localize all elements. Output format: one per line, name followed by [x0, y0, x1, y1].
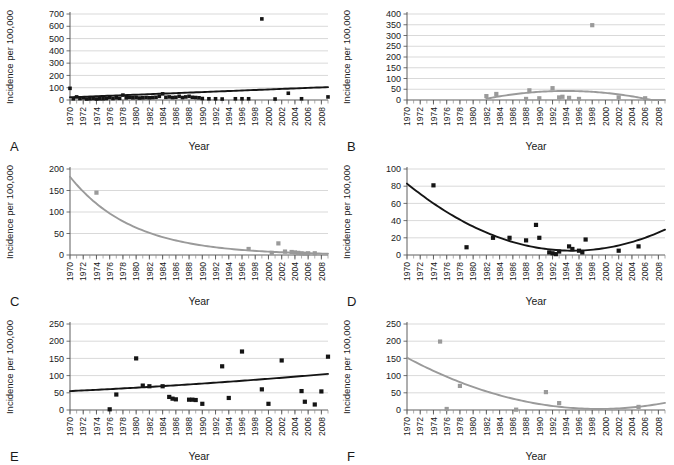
data-point — [187, 95, 191, 99]
x-tick-label: 1984 — [158, 262, 168, 281]
x-tick-label: 2006 — [640, 417, 650, 436]
data-point — [220, 364, 224, 368]
data-point — [167, 95, 171, 99]
data-point — [108, 407, 112, 411]
data-point — [514, 408, 518, 412]
x-tick-label: 1974 — [92, 262, 102, 281]
data-point — [151, 96, 155, 100]
data-point — [636, 405, 640, 409]
x-tick-label: 1986 — [508, 107, 518, 126]
data-point — [590, 23, 594, 27]
x-tick-label: 1994 — [561, 417, 571, 436]
x-tick-label: 1998 — [587, 107, 597, 126]
x-tick-label: 1980 — [468, 262, 478, 281]
x-tick-label: 1984 — [158, 107, 168, 126]
data-point — [303, 400, 307, 404]
x-tick-label: 1996 — [237, 417, 247, 436]
data-point — [464, 245, 468, 249]
x-tick-label: 1978 — [118, 107, 128, 126]
x-ticks: 1970197219741976197819801982198419861988… — [402, 100, 665, 126]
x-tick-label: 1978 — [118, 417, 128, 436]
data-point — [207, 97, 211, 101]
data-point — [128, 96, 132, 100]
data-point — [141, 96, 145, 100]
data-point — [181, 96, 185, 100]
data-point — [164, 96, 168, 100]
x-tick-label: 1980 — [131, 107, 141, 126]
y-tick-label: 20 — [391, 233, 401, 243]
x-tick-label: 1990 — [535, 417, 545, 436]
y-axis-title: Incidence per 100,000 — [4, 165, 15, 259]
y-tick-label: 0 — [59, 95, 64, 105]
y-tick-label: 0 — [59, 250, 64, 260]
data-point — [134, 96, 138, 100]
x-tick-label: 1986 — [508, 262, 518, 281]
data-point — [247, 97, 251, 101]
x-tick-label: 1986 — [171, 262, 181, 281]
x-tick-label: 1988 — [521, 417, 531, 436]
x-tick-label: 1974 — [429, 107, 439, 126]
axes — [407, 322, 665, 410]
x-tick-label: 2004 — [290, 107, 300, 126]
data-point — [458, 384, 462, 388]
axes — [407, 12, 665, 100]
data-point — [306, 251, 310, 255]
x-tick-label: 1976 — [105, 262, 115, 281]
y-tick-label: 600 — [49, 21, 64, 31]
x-tick-label: 1998 — [587, 417, 597, 436]
data-point — [617, 249, 621, 253]
x-tick-label: 1986 — [171, 107, 181, 126]
x-tick-label: 2006 — [303, 417, 313, 436]
data-point — [260, 17, 264, 21]
chart-svg-c: 0501001502001970197219741976197819801982… — [0, 155, 337, 310]
y-tick-label: 0 — [396, 405, 401, 415]
x-tick-label: 1976 — [105, 417, 115, 436]
data-point — [105, 97, 109, 101]
data-point — [201, 97, 205, 101]
data-point — [273, 97, 277, 101]
x-tick-label: 1974 — [429, 262, 439, 281]
x-tick-label: 2006 — [640, 107, 650, 126]
x-tick-label: 1992 — [211, 262, 221, 281]
x-tick-label: 1978 — [455, 417, 465, 436]
trendline — [70, 374, 328, 391]
data-points — [431, 183, 640, 256]
data-point — [174, 397, 178, 401]
x-tick-label: 2000 — [264, 107, 274, 126]
x-tick-label: 1978 — [455, 262, 465, 281]
data-point — [313, 251, 317, 255]
y-tick-label: 150 — [49, 354, 64, 364]
x-tick-label: 1976 — [442, 107, 452, 126]
data-point — [94, 191, 98, 195]
x-tick-label: 1984 — [158, 417, 168, 436]
data-point — [524, 238, 528, 242]
data-point — [266, 402, 270, 406]
data-point — [111, 97, 115, 101]
x-tick-label: 2006 — [640, 262, 650, 281]
x-tick-label: 1976 — [442, 262, 452, 281]
x-tick-label: 1982 — [145, 262, 155, 281]
x-tick-label: 1996 — [574, 107, 584, 126]
y-tick-label: 50 — [54, 388, 64, 398]
data-point — [577, 97, 581, 101]
trendline — [70, 177, 328, 254]
x-tick-label: 1972 — [78, 417, 88, 436]
x-tick-label: 2006 — [303, 107, 313, 126]
y-tick-label: 500 — [49, 34, 64, 44]
x-tick-label: 1990 — [198, 262, 208, 281]
y-tick-label: 0 — [59, 405, 64, 415]
data-point — [319, 389, 323, 393]
data-point — [438, 339, 442, 343]
x-tick-label: 1974 — [92, 417, 102, 436]
data-point — [584, 237, 588, 241]
y-axis-title: Incidence per 100,000 — [4, 320, 15, 414]
x-tick-label: 2002 — [277, 262, 287, 281]
x-tick-label: 1970 — [65, 417, 75, 436]
y-tick-label: 80 — [391, 181, 401, 191]
x-tick-label: 1996 — [237, 107, 247, 126]
data-point — [580, 250, 584, 254]
trendline — [407, 184, 665, 251]
y-tick-label: 100 — [49, 83, 64, 93]
y-axis-title: Incidence per 100,000 — [4, 10, 15, 104]
data-point — [118, 96, 122, 100]
